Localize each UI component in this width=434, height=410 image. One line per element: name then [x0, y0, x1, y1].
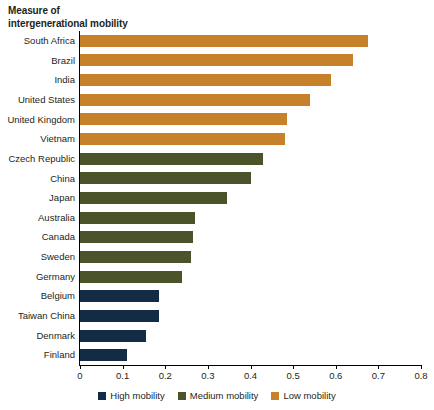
bar: [80, 54, 353, 66]
category-label: India: [54, 70, 75, 90]
x-axis-tick: [378, 365, 379, 369]
x-axis-tick: [251, 365, 252, 369]
x-axis-tick: [80, 365, 81, 369]
bar: [80, 153, 263, 165]
x-axis-tick: [208, 365, 209, 369]
x-axis-tick-label: 0.5: [287, 370, 300, 381]
bar: [80, 35, 368, 47]
category-label: Canada: [42, 227, 75, 247]
plot-area: South AfricaBrazilIndiaUnited StatesUnit…: [79, 31, 421, 366]
bar: [80, 94, 310, 106]
x-axis-tick: [336, 365, 337, 369]
x-axis-tick-label: 0.7: [372, 370, 385, 381]
bar: [80, 133, 285, 145]
chart-title-line-1: Measure of: [8, 5, 218, 18]
bar: [80, 172, 251, 184]
x-axis-tick-label: 0: [77, 370, 82, 381]
category-label: Taiwan China: [18, 306, 75, 326]
legend-swatch-icon: [271, 392, 279, 400]
category-label: Germany: [36, 267, 75, 287]
bar: [80, 212, 195, 224]
bar: [80, 113, 287, 125]
x-axis-tick-label: 0.2: [159, 370, 172, 381]
bar: [80, 74, 331, 86]
x-axis-tick: [293, 365, 294, 369]
chart-title-line-2: intergenerational mobility: [8, 18, 218, 31]
bar: [80, 349, 127, 361]
category-label: Belgium: [41, 286, 75, 306]
x-axis-tick: [165, 365, 166, 369]
legend-swatch-icon: [178, 392, 186, 400]
category-label: Japan: [49, 188, 75, 208]
bar: [80, 251, 191, 263]
bar: [80, 192, 227, 204]
category-label: Denmark: [36, 326, 75, 346]
x-axis-tick-label: 0.3: [201, 370, 214, 381]
category-label: Vietnam: [40, 129, 75, 149]
x-axis-tick-label: 0.6: [329, 370, 342, 381]
category-label: United States: [18, 90, 75, 110]
x-axis-tick-label: 0.8: [414, 370, 427, 381]
x-axis-tick-label: 0.4: [244, 370, 257, 381]
category-label: Sweden: [41, 247, 75, 267]
category-label: Czech Republic: [8, 149, 75, 169]
bar: [80, 271, 182, 283]
category-label: United Kingdom: [7, 110, 75, 130]
category-label: South Africa: [24, 31, 75, 51]
legend-item: Low mobility: [271, 391, 335, 401]
legend-label: Low mobility: [283, 391, 335, 401]
legend-label: High mobility: [110, 391, 164, 401]
x-axis-tick: [421, 365, 422, 369]
category-label: Brazil: [51, 51, 75, 71]
bar: [80, 330, 146, 342]
legend-item: Medium mobility: [178, 391, 259, 401]
bar: [80, 310, 159, 322]
bar: [80, 231, 193, 243]
legend-item: High mobility: [98, 391, 164, 401]
chart-legend: High mobilityMedium mobilityLow mobility: [0, 391, 434, 401]
category-label: Finland: [44, 345, 75, 365]
x-axis-tick: [123, 365, 124, 369]
category-label: China: [50, 169, 75, 189]
category-label: Australia: [38, 208, 75, 228]
legend-swatch-icon: [98, 392, 106, 400]
legend-label: Medium mobility: [190, 391, 259, 401]
intergenerational-mobility-chart: Measure of intergenerational mobility So…: [0, 0, 434, 410]
x-axis-tick-label: 0.1: [116, 370, 129, 381]
chart-title: Measure of intergenerational mobility: [8, 5, 218, 30]
bar: [80, 290, 159, 302]
